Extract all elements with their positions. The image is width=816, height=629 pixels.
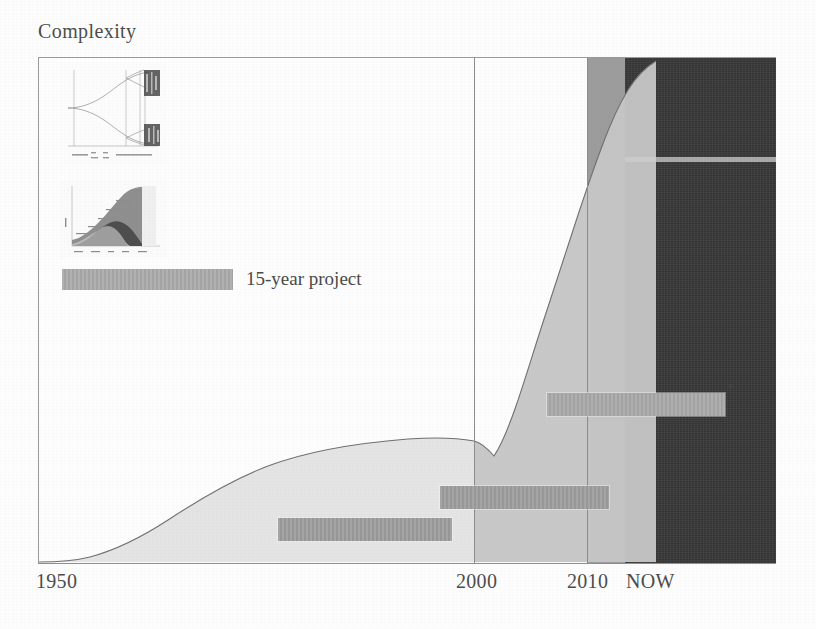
scan-artifact-streak [625, 157, 776, 162]
stacked-area-chart-thumbnail [60, 180, 167, 258]
project-bar-middle [440, 486, 609, 509]
x-tick-2000: 2000 [456, 570, 497, 593]
project-bar-top [547, 393, 725, 416]
project-bar-bottom [278, 518, 452, 541]
project-duration-swatch [62, 269, 233, 290]
legend-label: 15-year project [246, 268, 362, 290]
x-tick-2010: 2010 [567, 570, 608, 593]
legend: 15-year project [62, 268, 362, 290]
x-tick-1950: 1950 [36, 570, 77, 593]
x-tick-now: NOW [626, 570, 675, 593]
plot-frame-left [38, 57, 39, 564]
bifurcation-diagram-thumbnail [60, 62, 166, 166]
plot-frame-bottom [38, 563, 776, 564]
y-axis-title: Complexity [38, 20, 136, 43]
x-axis: 1950 2000 2010 NOW [0, 570, 816, 604]
plot-frame-top [38, 57, 776, 58]
